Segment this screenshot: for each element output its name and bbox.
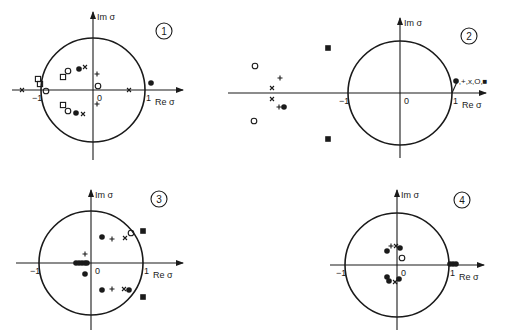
real-axis-label: Re σ bbox=[155, 97, 175, 107]
tick-one: 1 bbox=[144, 266, 149, 276]
pole-filled-circle-icon bbox=[148, 80, 154, 86]
cross-icon bbox=[270, 97, 274, 101]
plus-icon bbox=[110, 287, 115, 292]
open-square-icon bbox=[35, 76, 40, 81]
imag-axis-label: Im σ bbox=[401, 190, 419, 200]
panel-number: 4 bbox=[459, 195, 465, 206]
pole-filled-circle-icon bbox=[453, 261, 459, 267]
tick-neg-one: −1 bbox=[30, 266, 40, 276]
real-axis-label: Re σ bbox=[462, 100, 482, 110]
annotation-label: ●,+,x,O,■ bbox=[454, 77, 488, 86]
imag-axis-label: Im σ bbox=[97, 12, 115, 22]
open-circle-icon bbox=[65, 68, 71, 74]
cross-icon bbox=[83, 65, 87, 69]
tick-origin: 0 bbox=[401, 268, 406, 278]
open-square-icon bbox=[60, 74, 65, 79]
open-circle-icon bbox=[399, 255, 405, 261]
panel-number: 1 bbox=[161, 26, 167, 37]
panel-number: 2 bbox=[466, 31, 472, 42]
real-axis-label: Re σ bbox=[459, 272, 479, 282]
plus-icon bbox=[83, 252, 88, 257]
pole-filled-circle-icon bbox=[281, 104, 287, 110]
tick-one: 1 bbox=[146, 93, 151, 103]
panel-4: Im σRe σ−1104 bbox=[330, 190, 484, 330]
plus-icon bbox=[110, 237, 115, 242]
pole-filled-circle-icon bbox=[99, 234, 105, 240]
open-circle-icon bbox=[251, 118, 257, 124]
open-circle-icon bbox=[43, 88, 49, 94]
tick-origin: 0 bbox=[97, 93, 102, 103]
plus-icon bbox=[277, 105, 282, 110]
open-circle-icon bbox=[252, 63, 258, 69]
tick-one: 1 bbox=[450, 268, 455, 278]
plus-icon bbox=[95, 72, 100, 77]
pole-filled-circle-icon bbox=[126, 287, 132, 293]
tick-neg-one: −1 bbox=[32, 93, 42, 103]
cross-icon bbox=[122, 287, 126, 291]
panel-3: Im σRe σ−1103 bbox=[16, 190, 183, 330]
cross-icon bbox=[81, 112, 85, 116]
pole-filled-circle-icon bbox=[396, 276, 402, 282]
tick-origin: 0 bbox=[95, 266, 100, 276]
panel-number: 3 bbox=[156, 194, 162, 205]
pole-filled-circle-icon bbox=[73, 110, 79, 116]
tick-one: 1 bbox=[453, 96, 458, 106]
pole-filled-circle-icon bbox=[99, 287, 105, 293]
imag-axis-label: Im σ bbox=[404, 18, 422, 28]
cross-icon bbox=[123, 236, 127, 240]
cross-icon bbox=[393, 280, 397, 284]
open-square-icon bbox=[60, 102, 65, 107]
open-circle-icon bbox=[65, 108, 71, 114]
pole-filled-circle-icon bbox=[82, 271, 88, 277]
pole-filled-circle-icon bbox=[76, 66, 82, 72]
open-circle-icon bbox=[95, 83, 101, 89]
tick-neg-one: −1 bbox=[336, 268, 346, 278]
plus-icon bbox=[389, 244, 394, 249]
pole-filled-circle-icon bbox=[384, 248, 390, 254]
tick-origin: 0 bbox=[404, 96, 409, 106]
filled-square-icon bbox=[140, 294, 146, 300]
panel-1: Im σRe σ−1101 bbox=[12, 12, 183, 160]
pole-filled-circle-icon bbox=[84, 260, 90, 266]
filled-square-icon bbox=[140, 228, 146, 234]
filled-square-icon bbox=[325, 136, 331, 142]
pole-filled-circle-icon bbox=[397, 245, 403, 251]
imag-axis-label: Im σ bbox=[95, 190, 113, 200]
panel-2: Im σRe σ−1102●,+,x,O,■ bbox=[228, 18, 488, 158]
pole-filled-circle-icon bbox=[386, 278, 392, 284]
real-axis-label: Re σ bbox=[153, 270, 173, 280]
tick-neg-one: −1 bbox=[339, 96, 349, 106]
cross-icon bbox=[270, 86, 274, 90]
root-locus-figure: Im σRe σ−1101Im σRe σ−1102●,+,x,O,■Im σR… bbox=[0, 0, 505, 336]
pole-filled-circle-icon bbox=[453, 78, 459, 84]
filled-square-icon bbox=[325, 45, 331, 51]
plus-icon bbox=[278, 76, 283, 81]
